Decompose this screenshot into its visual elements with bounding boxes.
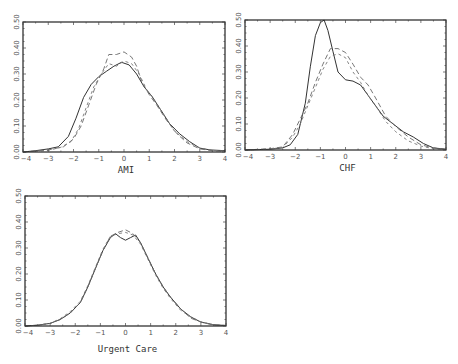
density-curve-solid bbox=[245, 20, 446, 150]
y-tick-label: 0.40 bbox=[235, 38, 243, 54]
y-tick-label: 0.00 bbox=[13, 144, 21, 160]
x-tick-label: 4 bbox=[224, 329, 229, 337]
x-tick-label: −1 bbox=[315, 153, 325, 161]
y-tick-label: 0.30 bbox=[235, 64, 243, 80]
x-tick-label: 0 bbox=[343, 153, 347, 161]
x-tick-label: −3 bbox=[43, 155, 53, 163]
x-tick-label: −2 bbox=[68, 155, 78, 163]
x-tick-label: −3 bbox=[265, 153, 275, 161]
density-curve-dashed-2 bbox=[25, 232, 226, 326]
x-tick-label: 1 bbox=[148, 329, 152, 337]
y-tick-label: 0.20 bbox=[13, 92, 21, 108]
x-axis-label: CHF bbox=[339, 163, 355, 173]
y-tick-label: 0.50 bbox=[13, 14, 21, 30]
x-tick-label: −4 bbox=[21, 155, 32, 163]
x-tick-label: 1 bbox=[147, 155, 151, 163]
x-tick-label: 2 bbox=[174, 329, 178, 337]
x-tick-label: −3 bbox=[45, 329, 55, 337]
y-tick-label: 0.50 bbox=[235, 12, 243, 28]
x-tick-label: 0 bbox=[122, 155, 126, 163]
y-tick-label: 0.20 bbox=[15, 266, 23, 282]
density-curve-dashed-2 bbox=[23, 61, 225, 152]
y-tick-label: 0.10 bbox=[235, 116, 243, 132]
y-tick-label: 0.40 bbox=[13, 40, 21, 56]
y-tick-label: 0.30 bbox=[13, 66, 21, 82]
y-tick-label: 0.10 bbox=[15, 292, 23, 308]
x-tick-label: −2 bbox=[290, 153, 300, 161]
density-curve-dashed-1 bbox=[245, 49, 446, 150]
x-tick-label: −1 bbox=[94, 155, 104, 163]
x-tick-label: −2 bbox=[70, 329, 80, 337]
x-tick-label: 4 bbox=[223, 155, 228, 163]
density-plots-figure: −4−3−2−1012340.000.100.200.300.400.50AMI… bbox=[0, 0, 458, 364]
y-tick-label: 0.30 bbox=[15, 240, 23, 256]
x-tick-label: 2 bbox=[394, 153, 398, 161]
x-tick-label: −4 bbox=[243, 153, 254, 161]
x-tick-label: 3 bbox=[419, 153, 423, 161]
density-curve-dashed-1 bbox=[23, 52, 225, 152]
x-tick-label: 3 bbox=[198, 155, 202, 163]
x-tick-label: 4 bbox=[444, 153, 449, 161]
x-tick-label: 3 bbox=[199, 329, 203, 337]
plot-frame bbox=[23, 22, 225, 152]
y-tick-label: 0.20 bbox=[235, 90, 243, 106]
x-axis-label: AMI bbox=[118, 165, 134, 175]
y-tick-label: 0.00 bbox=[235, 142, 243, 158]
chf-density-panel: −4−3−2−1012340.000.100.200.300.400.50CHF bbox=[235, 12, 449, 173]
y-tick-label: 0.40 bbox=[15, 214, 23, 230]
x-tick-label: 2 bbox=[172, 155, 176, 163]
density-curve-dashed-2 bbox=[245, 54, 446, 150]
density-curve-solid bbox=[23, 62, 225, 152]
y-tick-label: 0.00 bbox=[15, 318, 23, 334]
x-tick-label: 0 bbox=[123, 329, 127, 337]
y-tick-label: 0.10 bbox=[13, 118, 21, 134]
x-tick-label: −1 bbox=[95, 329, 105, 337]
x-tick-label: 1 bbox=[368, 153, 372, 161]
plot-frame bbox=[25, 196, 226, 326]
density-curve-solid bbox=[25, 234, 226, 326]
x-axis-label: Urgent Care bbox=[98, 344, 158, 354]
y-tick-label: 0.50 bbox=[15, 188, 23, 204]
urgent-care-density-panel: −4−3−2−1012340.000.100.200.300.400.50Urg… bbox=[15, 188, 229, 354]
plot-frame bbox=[245, 20, 446, 150]
x-tick-label: −4 bbox=[23, 329, 34, 337]
density-curve-dashed-1 bbox=[25, 230, 226, 326]
ami-density-panel: −4−3−2−1012340.000.100.200.300.400.50AMI bbox=[13, 14, 228, 175]
